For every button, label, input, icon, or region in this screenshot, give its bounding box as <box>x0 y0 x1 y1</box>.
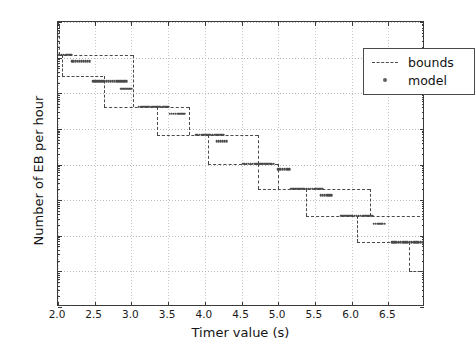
model-data-point <box>88 60 91 63</box>
x-tick-label: 4.5 <box>232 308 249 320</box>
legend-label-bounds: bounds <box>400 55 454 70</box>
x-tick-label: 3.5 <box>159 308 176 320</box>
x-tick-label: 5.0 <box>269 308 286 320</box>
dot-marker-icon <box>370 78 400 82</box>
y-tick-right <box>420 307 424 308</box>
model-data-point <box>183 112 186 115</box>
legend[interactable]: bounds model <box>363 48 475 95</box>
legend-item-bounds[interactable]: bounds <box>370 53 468 71</box>
model-data-point <box>223 134 226 137</box>
x-tick-label: 6.5 <box>379 308 396 320</box>
model-data-point <box>321 187 324 190</box>
x-tick-label: 2.0 <box>49 308 66 320</box>
model-data-point <box>130 87 133 90</box>
legend-label-model: model <box>400 73 447 88</box>
x-tick-label: 3.0 <box>122 308 139 320</box>
x-axis-title: Timer value (s) <box>57 325 424 340</box>
model-data-point <box>383 222 386 225</box>
legend-item-model[interactable]: model <box>370 71 468 89</box>
x-tick-label: 4.0 <box>195 308 212 320</box>
y-axis-title: Number of EB per hour <box>31 41 46 301</box>
x-tick-label: 2.5 <box>85 308 102 320</box>
model-data-point <box>330 194 333 197</box>
y-tick <box>58 307 62 308</box>
x-tick-label: 5.5 <box>306 308 323 320</box>
dashed-line-icon <box>370 62 400 63</box>
model-data-point <box>288 168 291 171</box>
model-data-point <box>226 140 229 143</box>
model-data-point <box>125 80 128 83</box>
model-data-point <box>371 214 374 217</box>
model-data-point <box>70 54 73 57</box>
model-data-point <box>167 105 170 108</box>
model-data-point <box>272 162 275 165</box>
x-tick-label: 6.0 <box>342 308 359 320</box>
plot-area: bounds model <box>57 21 424 306</box>
